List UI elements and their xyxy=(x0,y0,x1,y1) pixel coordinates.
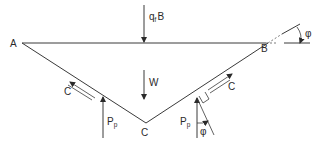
passive-left-label: Pp xyxy=(107,116,118,129)
right-angle-marker xyxy=(199,92,209,103)
phi-angle-arc-force xyxy=(197,121,208,123)
phi-label-b: φ xyxy=(305,28,312,39)
wedge-side-bc xyxy=(146,24,300,123)
point-b-label: B xyxy=(261,43,268,54)
point-c-label: C xyxy=(141,127,148,138)
cohesion-left-arrow xyxy=(68,82,95,100)
cohesion-left-label: C xyxy=(64,86,71,97)
wedge-diagram: qfB W C Pp C A B φ C Pp φ xyxy=(0,0,324,148)
phi-label-force: φ xyxy=(200,126,207,137)
wedge-side-ac xyxy=(22,43,146,123)
phi-angle-arc-b xyxy=(297,27,301,43)
passive-right-label: Pp xyxy=(180,116,191,129)
cohesion-right-label: C xyxy=(228,81,235,92)
weight-label: W xyxy=(149,77,159,88)
point-a-label: A xyxy=(10,38,17,49)
surface-load-label: qfB xyxy=(149,11,164,23)
